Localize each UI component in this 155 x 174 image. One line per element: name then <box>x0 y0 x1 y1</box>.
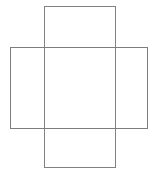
vertical-rectangle <box>45 7 116 168</box>
horizontal-rectangle <box>11 48 148 129</box>
overlapping-rectangles-figure <box>0 0 155 174</box>
figure-canvas <box>0 0 155 174</box>
